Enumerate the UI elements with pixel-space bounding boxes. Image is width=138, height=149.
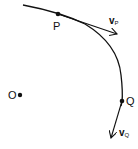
point-o-dot bbox=[18, 93, 22, 97]
point-q-label: Q bbox=[126, 95, 135, 107]
point-p-label: P bbox=[53, 20, 60, 32]
velocity-p-label: vP bbox=[109, 15, 119, 26]
trajectory-curve bbox=[23, 5, 122, 106]
velocity-q-label: vQ bbox=[119, 127, 130, 138]
point-o-label: O bbox=[8, 89, 17, 101]
motion-diagram: P vP O Q vQ bbox=[0, 0, 138, 149]
